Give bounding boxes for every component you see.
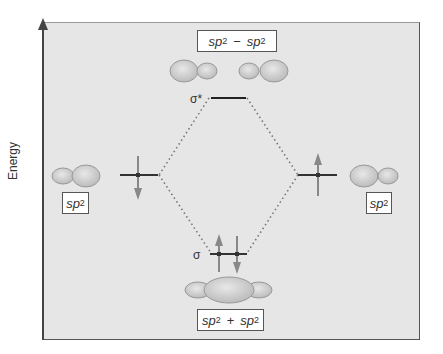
antibonding-orbital-left-lobe: [170, 60, 217, 82]
bonding-orbital: [185, 277, 272, 303]
right-atomic-orbital: [350, 165, 398, 187]
antibonding-orbital-right-lobe: [239, 60, 288, 82]
left-atomic-orbital: [52, 165, 100, 187]
diagram-graphics: [0, 0, 443, 354]
correlation-lines: [159, 98, 298, 253]
electron-spin-down-arrow-icon: [134, 156, 142, 200]
